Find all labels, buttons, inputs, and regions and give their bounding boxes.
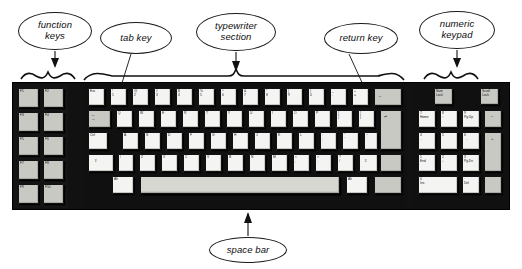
key-j[interactable]: J: [254, 132, 271, 150]
shift-up-arrow-icon: ⇧: [94, 159, 111, 163]
key-n[interactable]: N: [249, 154, 266, 172]
key-slash[interactable]: ? /: [337, 154, 354, 172]
key-y[interactable]: Y: [226, 110, 243, 128]
key-numpad-6[interactable]: 6 →: [462, 132, 480, 150]
key-h[interactable]: H: [232, 132, 249, 150]
key-quote[interactable]: " ': [342, 132, 359, 150]
key-4-label: $ 4: [178, 90, 191, 97]
key-numpad-9[interactable]: 9 Pg Up: [462, 110, 480, 128]
key-a-label: A: [124, 134, 137, 137]
key-semicolon-label: : ;: [322, 134, 335, 141]
key-7[interactable]: & 7: [242, 88, 259, 106]
key-t[interactable]: T: [204, 110, 221, 128]
key-4[interactable]: $ 4: [176, 88, 193, 106]
key-numpad-8[interactable]: 8 ↑: [440, 110, 458, 128]
key-e[interactable]: E: [160, 110, 177, 128]
key-numpad-plus[interactable]: +: [484, 132, 502, 172]
key-num-lock[interactable]: Num Lock: [434, 88, 453, 105]
key-s[interactable]: S: [144, 132, 161, 150]
key-return[interactable]: ↵: [380, 110, 402, 150]
key-bracket-left[interactable]: { [: [336, 110, 353, 128]
arrowhead-function-keys: [51, 58, 59, 68]
key-alt-left[interactable]: Alt: [112, 176, 134, 194]
key-equals[interactable]: + =: [352, 88, 369, 106]
key-f1-label: F1: [20, 90, 37, 93]
key-v[interactable]: V: [205, 154, 222, 172]
key-w-label: W: [140, 112, 153, 115]
key-alt-right[interactable]: Alt: [346, 176, 368, 194]
key-shift-right[interactable]: ⇧: [359, 154, 378, 172]
key-bracket-right[interactable]: } ]: [358, 110, 375, 128]
key-d-label: D: [168, 134, 181, 137]
key-numpad-del[interactable]: · Del: [462, 176, 480, 194]
key-numpad-minus[interactable]: −: [484, 110, 502, 128]
key-f8[interactable]: F8: [43, 160, 64, 180]
key-ctrl-left[interactable]: Ctrl: [88, 132, 108, 150]
key-m[interactable]: M: [271, 154, 288, 172]
key-backtick-label: ~ `: [366, 134, 376, 141]
key-r[interactable]: R: [182, 110, 199, 128]
key-f7[interactable]: F7: [18, 160, 39, 180]
arrowhead-numeric-keypad: [453, 58, 461, 68]
key-p[interactable]: P: [314, 110, 331, 128]
key-f9[interactable]: F9: [18, 184, 39, 204]
key-0[interactable]: ) 0: [308, 88, 325, 106]
key-f4[interactable]: F4: [43, 112, 64, 132]
key-backslash[interactable]: \: [118, 154, 134, 172]
key-w[interactable]: W: [138, 110, 155, 128]
key-2[interactable]: @ 2: [132, 88, 149, 106]
key-numpad-enter[interactable]: [484, 176, 502, 194]
key-l[interactable]: L: [298, 132, 315, 150]
key-numpad-2[interactable]: 2 ↓: [440, 154, 458, 172]
key-k[interactable]: K: [276, 132, 293, 150]
key-comma[interactable]: < ,: [293, 154, 310, 172]
key-6[interactable]: ^ 6: [220, 88, 237, 106]
key-1[interactable]: ! 1: [110, 88, 127, 106]
key-numpad-7[interactable]: 7 Home: [418, 110, 436, 128]
key-f3[interactable]: F3: [18, 112, 39, 132]
key-y-label: Y: [228, 112, 241, 115]
key-c[interactable]: C: [183, 154, 200, 172]
key-f2[interactable]: F2: [43, 88, 64, 108]
key-numpad-1[interactable]: 1 End: [418, 154, 436, 172]
key-5-label: % 5: [200, 90, 213, 97]
key-i[interactable]: I: [270, 110, 287, 128]
key-esc[interactable]: Esc: [88, 88, 105, 106]
key-f[interactable]: F: [188, 132, 205, 150]
key-x[interactable]: X: [161, 154, 178, 172]
key-8[interactable]: * 8: [264, 88, 281, 106]
key-numpad-0[interactable]: 0 Ins: [418, 176, 458, 194]
key-backtick[interactable]: ~ `: [364, 132, 378, 150]
key-1-label: ! 1: [112, 90, 125, 97]
key-caps-lock[interactable]: [374, 176, 402, 194]
key-f6[interactable]: F6: [43, 136, 64, 156]
key-3[interactable]: # 3: [154, 88, 171, 106]
key-shift-left[interactable]: ⇧: [88, 154, 114, 172]
key-tab[interactable]: ← →: [88, 110, 111, 128]
key-numpad-7-label: 7 Home: [420, 112, 434, 119]
key-q[interactable]: Q: [116, 110, 133, 128]
key-numpad-4[interactable]: 4 ←: [418, 132, 436, 150]
key-f10[interactable]: F10: [43, 184, 64, 204]
key-9[interactable]: ( 9: [286, 88, 303, 106]
key-a[interactable]: A: [122, 132, 139, 150]
key-period[interactable]: > .: [315, 154, 332, 172]
key-space-bar[interactable]: [140, 176, 340, 194]
key-semicolon[interactable]: : ;: [320, 132, 337, 150]
key-u[interactable]: U: [248, 110, 265, 128]
key-f5[interactable]: F5: [18, 136, 39, 156]
key-scroll-lock[interactable]: Scroll Lock: [480, 88, 499, 105]
key-o[interactable]: O: [292, 110, 309, 128]
key-5[interactable]: % 5: [198, 88, 215, 106]
key-g[interactable]: G: [210, 132, 227, 150]
key-numpad-3[interactable]: 3 Pg Dn: [462, 154, 480, 172]
key-z[interactable]: Z: [139, 154, 156, 172]
key-d[interactable]: D: [166, 132, 183, 150]
key-backspace[interactable]: ←: [374, 88, 402, 106]
key-numpad-5[interactable]: 5: [440, 132, 458, 150]
key-prt-sc[interactable]: [380, 154, 402, 172]
key-minus[interactable]: _ -: [330, 88, 347, 106]
key-b[interactable]: B: [227, 154, 244, 172]
brace-function-keys: [21, 72, 75, 79]
key-f1[interactable]: F1: [18, 88, 39, 108]
